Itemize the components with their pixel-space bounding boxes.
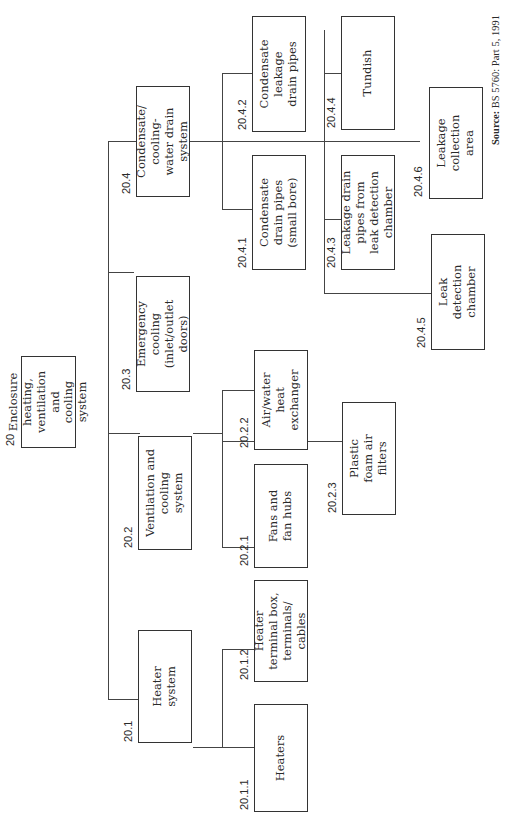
node-label: (small bore) bbox=[286, 177, 300, 247]
node-box-20-4-1: Condensate drain pipes (small bore) bbox=[252, 155, 306, 270]
connector-line bbox=[324, 293, 441, 294]
node-code: 20.2 bbox=[122, 527, 134, 548]
connector-line bbox=[222, 650, 223, 748]
connector-line bbox=[222, 74, 223, 142]
node-label: filters bbox=[376, 434, 390, 483]
node-box-20-4-4: Tundish bbox=[341, 16, 395, 130]
node-label: Plastic bbox=[348, 434, 362, 483]
node-label: Condensate/ bbox=[135, 105, 149, 178]
connector-line bbox=[222, 390, 254, 391]
node-label: cables bbox=[295, 592, 309, 670]
node-label: Ventilation and bbox=[144, 449, 158, 537]
node-label: system bbox=[172, 449, 186, 537]
node-label: Condensate bbox=[258, 40, 272, 109]
connector-line bbox=[222, 391, 223, 548]
node-label: cooling- bbox=[149, 105, 163, 178]
node-code: 20.2.3 bbox=[326, 482, 338, 513]
node-label: water drain bbox=[163, 105, 177, 178]
node-box-20-2-1: Fans and fan hubs bbox=[254, 464, 308, 568]
node-label: chamber bbox=[382, 171, 396, 255]
node-code: 20.3 bbox=[120, 369, 132, 390]
node-label: terminals/ bbox=[281, 592, 295, 670]
node-label: doors) bbox=[177, 300, 191, 369]
node-label: Enclosure bbox=[7, 361, 21, 443]
node-label: system bbox=[165, 666, 179, 707]
node-label: Heater bbox=[151, 666, 165, 707]
node-code: 20.4.5 bbox=[415, 317, 427, 348]
node-code: 20.1.1 bbox=[238, 779, 250, 810]
node-label: ventilation and bbox=[35, 361, 63, 443]
node-label: fan hubs bbox=[281, 490, 295, 543]
node-box-20-3: Emergency cooling (inlet/outlet doors) bbox=[136, 276, 190, 392]
node-box-20-2-3: Plastic foam air filters bbox=[342, 402, 396, 515]
node-label: (inlet/outlet bbox=[163, 300, 177, 369]
node-label: system bbox=[177, 105, 191, 178]
node-label: area bbox=[463, 115, 477, 172]
node-box-20-1-1: Heaters bbox=[254, 704, 308, 812]
node-label: chamber bbox=[465, 265, 479, 320]
node-code: 20.4 bbox=[120, 173, 132, 194]
node-label: Heaters bbox=[274, 735, 288, 782]
node-label: collection bbox=[449, 115, 463, 172]
node-code: 20.4.3 bbox=[325, 237, 337, 268]
node-label: drain pipes bbox=[286, 40, 300, 109]
tree-diagram: 20 Enclosure heating, ventilation and co… bbox=[0, 0, 506, 818]
node-label: cooling bbox=[158, 449, 172, 537]
root-node-box: Enclosure heating, ventilation and cooli… bbox=[21, 356, 76, 448]
source-citation: Source: BS 5760: Part 5, 1991 bbox=[490, 15, 501, 145]
node-label: leakage bbox=[272, 40, 286, 109]
node-label: Air/water bbox=[260, 369, 274, 430]
node-label: Condensate bbox=[258, 177, 272, 247]
connector-line bbox=[108, 433, 140, 434]
node-label: Leak bbox=[437, 265, 451, 320]
node-label: cooling bbox=[149, 300, 163, 369]
node-label: pipes from bbox=[354, 171, 368, 255]
node-code: 20.4.4 bbox=[325, 97, 337, 128]
node-box-20-2: Ventilation and cooling system bbox=[138, 436, 192, 550]
node-box-20-2-2: Air/water heat exchanger bbox=[254, 350, 308, 450]
node-box-20-4: Condensate/ cooling- water drain system bbox=[136, 86, 190, 197]
node-code: 20.1.2 bbox=[238, 649, 250, 680]
node-label: heating, bbox=[21, 361, 35, 443]
source-text: BS 5760: Part 5, 1991 bbox=[490, 15, 501, 108]
node-code: 20.2.2 bbox=[238, 417, 250, 448]
node-label: exchanger bbox=[288, 369, 302, 430]
node-code: 20.1 bbox=[122, 721, 134, 742]
node-label: Leakage bbox=[435, 115, 449, 172]
node-label: Heater bbox=[253, 592, 267, 670]
node-label: Tundish bbox=[361, 50, 375, 97]
node-box-20-1: Heater system bbox=[138, 630, 192, 743]
node-label: cooling system bbox=[62, 361, 90, 443]
node-label: Emergency bbox=[135, 300, 149, 369]
node-code: 20.4.2 bbox=[236, 99, 248, 130]
connector-line bbox=[222, 142, 223, 210]
node-label: Leakage drain bbox=[340, 171, 354, 255]
node-label: detection bbox=[451, 265, 465, 320]
node-label: leak detection bbox=[368, 171, 382, 255]
node-label: heat bbox=[274, 369, 288, 430]
connector-line bbox=[324, 141, 420, 142]
node-label: drain pipes bbox=[272, 177, 286, 247]
node-box-20-4-6: Leakage collection area bbox=[429, 87, 483, 199]
connector-line bbox=[193, 747, 223, 748]
source-label: Source: bbox=[490, 111, 501, 145]
connector-line bbox=[108, 142, 109, 700]
node-box-20-4-2: Condensate leakage drain pipes bbox=[252, 16, 306, 132]
node-label: terminal box, bbox=[267, 592, 281, 670]
connector-line bbox=[108, 272, 134, 273]
connector-line bbox=[222, 209, 254, 210]
node-code: 20.4.6 bbox=[412, 166, 424, 197]
connector-line bbox=[108, 699, 140, 700]
node-box-20-4-3: Leakage drain pipes from leak detection … bbox=[341, 155, 395, 270]
node-box-20-1-2: Heater terminal box, terminals/ cables bbox=[254, 580, 308, 682]
connector-line bbox=[222, 747, 254, 748]
node-code: 20.4.1 bbox=[236, 237, 248, 268]
connector-line bbox=[222, 73, 254, 74]
connector-line bbox=[193, 433, 222, 434]
node-label: Fans and bbox=[267, 490, 281, 543]
node-label: foam air bbox=[362, 434, 376, 483]
node-box-20-4-5: Leak detection chamber bbox=[431, 234, 485, 350]
node-code: 20.2.1 bbox=[238, 535, 250, 566]
